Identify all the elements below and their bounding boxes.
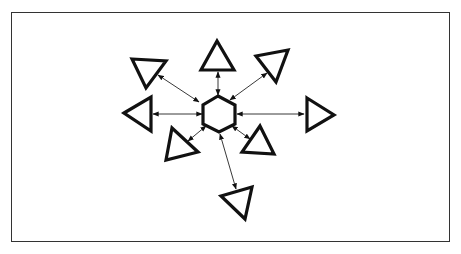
bidirectional-arrow-upper-left [158, 75, 199, 102]
hub-spoke-diagram [0, 0, 461, 254]
bidirectional-arrow-lower-right [232, 126, 250, 139]
triangle-node-bottom [221, 187, 252, 219]
triangle-node-upper-left [132, 59, 166, 88]
bidirectional-arrow-upper-right [230, 73, 267, 100]
triangle-node-right [307, 98, 334, 131]
hexagon-hub [203, 96, 235, 132]
triangle-node-lower-right [242, 126, 274, 154]
bidirectional-arrow-lower-left [188, 126, 206, 141]
triangle-nodes [124, 41, 334, 219]
bidirectional-arrow-bottom [220, 134, 236, 189]
triangle-node-top [201, 41, 234, 70]
triangle-node-lower-left [166, 128, 198, 160]
triangle-node-left [124, 97, 151, 131]
